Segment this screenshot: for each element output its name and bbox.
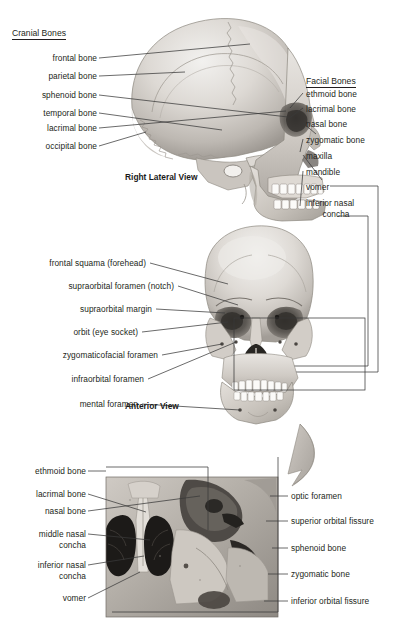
label-middle-nasal-concha-line1: middle nasal: [0, 529, 86, 539]
label-zygomatic-bone-detail: zygomatic bone: [291, 569, 350, 579]
label-middle-nasal-concha-line2: concha: [0, 540, 86, 550]
label-nasal-bone-lateral: nasal bone: [306, 119, 347, 129]
label-mandible: mandible: [306, 167, 340, 177]
label-inferior-nasal-concha-detail-line2: concha: [0, 571, 86, 581]
label-sphenoid-bone: sphenoid bone: [0, 90, 97, 100]
skull-anterior-illustration: [205, 226, 313, 424]
label-sphenoid-bone-detail: sphenoid bone: [291, 543, 346, 553]
label-inferior-nasal-concha-detail-line1: inferior nasal: [0, 560, 86, 570]
label-inferior-orbital-fissure: inferior orbital fissure: [291, 596, 369, 606]
label-lacrimal-bone-lateral: lacrimal bone: [0, 123, 97, 133]
caption-anterior-view: Anterior View: [125, 401, 179, 411]
label-vomer-lateral: vomer: [306, 182, 329, 192]
skull-detail-illustration: [104, 477, 278, 617]
label-superior-orbital-fissure: superior orbital fissure: [291, 516, 374, 526]
label-ethmoid-bone-lateral: ethmoid bone: [306, 89, 357, 99]
caption-right-lateral-view: Right Lateral View: [125, 172, 197, 182]
heading-cranial-bones: Cranial Bones: [12, 28, 66, 40]
label-zygomatic-bone-lateral: zygomatic bone: [306, 135, 365, 145]
label-lacrimal-bone-facial: lacrimal bone: [306, 104, 356, 114]
label-parietal-bone: parietal bone: [0, 71, 97, 81]
label-mental-foramen: mental foramen: [0, 399, 138, 409]
label-inferior-nasal-concha-line2: concha: [306, 209, 366, 219]
label-frontal-bone: frontal bone: [0, 53, 97, 63]
label-lacrimal-bone-detail: lacrimal bone: [0, 489, 86, 499]
heading-facial-bones: Facial Bones: [306, 76, 356, 88]
zoom-arrow-icon: [288, 424, 314, 486]
label-occipital-bone: occipital bone: [0, 141, 97, 151]
label-infraorbital-foramen: infraorbital foramen: [0, 374, 144, 384]
label-supraorbital-foramen: supraorbital foramen (notch): [0, 281, 174, 291]
label-orbit-eye-socket: orbit (eye socket): [0, 327, 138, 337]
figure-canvas: Cranial Bones Facial Bones frontal bone …: [0, 0, 406, 627]
label-ethmoid-bone-detail: ethmoid bone: [0, 466, 86, 476]
label-vomer-detail: vomer: [0, 593, 86, 603]
label-supraorbital-margin: supraorbital margin: [0, 304, 152, 314]
label-temporal-bone: temporal bone: [0, 108, 97, 118]
label-nasal-bone-detail: nasal bone: [0, 506, 86, 516]
label-maxilla: maxilla: [306, 151, 332, 161]
label-frontal-squama: frontal squama (forehead): [0, 258, 146, 268]
label-inferior-nasal-concha-line1: inferior nasal: [306, 198, 354, 208]
skull-lateral-illustration: [132, 19, 326, 221]
label-zygomaticofacial-foramen: zygomaticofacial foramen: [0, 350, 158, 360]
label-optic-foramen: optic foramen: [291, 491, 342, 501]
